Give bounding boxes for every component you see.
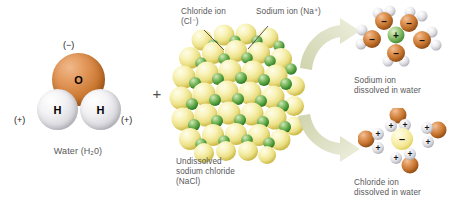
hydrogen-left-sphere — [37, 89, 78, 130]
svg-text:+: + — [393, 30, 399, 41]
chloride-dissolved-caption-line2: dissolved in water — [354, 188, 421, 198]
svg-text:–: – — [381, 16, 387, 27]
sodium-dissolved-illustration: – – – – – + — [352, 4, 448, 74]
sodium-dissolved-caption-line2: dissolved in water — [354, 86, 421, 96]
svg-text:+: + — [426, 137, 431, 147]
dissolution-diagram: (−) O H H (+) (+) Water (H₂0) + — [0, 0, 453, 213]
chloride-hydration-shell: + + + + + + + + – — [358, 108, 450, 174]
water-negative-charge-label: (−) — [63, 40, 74, 50]
svg-text:–: – — [406, 18, 412, 29]
svg-text:+: + — [389, 121, 394, 131]
chloride-dissolved-caption-line1: Chloride ion — [354, 178, 399, 188]
water-caption: Water (H₂0) — [28, 146, 128, 156]
svg-text:–: – — [393, 48, 399, 59]
chloride-dissolved-illustration: + + + + + + + + – — [358, 108, 450, 174]
callout-chloride-line2: (Cl⁻) — [181, 17, 199, 27]
callout-sodium: Sodium ion (Na⁺) — [256, 7, 321, 17]
svg-text:+: + — [394, 153, 399, 163]
svg-text:–: – — [419, 35, 425, 46]
svg-text:–: – — [369, 34, 375, 45]
sodium-dissolved-caption-line1: Sodium ion — [354, 76, 396, 86]
svg-text:+: + — [408, 149, 413, 159]
crystal-caption-line1: Undissolved — [176, 157, 222, 167]
crystal-caption-line3: (NaCl) — [176, 177, 200, 187]
sodium-hydration-shell: – – – – – + — [352, 4, 448, 74]
svg-text:+: + — [376, 143, 381, 153]
arrow-to-chloride-icon — [296, 110, 366, 166]
crystal-caption-line2: sodium chloride — [176, 167, 235, 177]
svg-text:–: – — [399, 133, 405, 145]
water-molecule-panel: (−) O H H (+) (+) Water (H₂0) — [0, 0, 160, 213]
hydrogen-right-sphere — [80, 89, 121, 130]
water-positive-charge-right-label: (+) — [121, 115, 132, 125]
svg-text:+: + — [425, 123, 430, 133]
callout-chloride-line1: Chloride ion — [181, 7, 226, 17]
water-positive-charge-left-label: (+) — [14, 115, 25, 125]
svg-text:+: + — [376, 129, 381, 139]
